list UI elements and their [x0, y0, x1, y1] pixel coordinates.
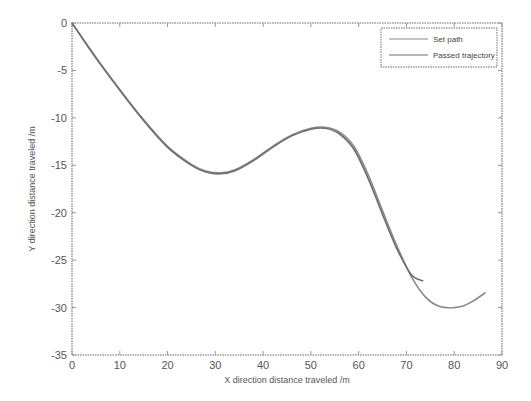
legend-label-set-path: Set path — [433, 35, 463, 44]
x-tick-label: 40 — [257, 359, 269, 371]
legend-label-passed-trajectory: Passed trajectory — [433, 51, 495, 60]
y-tick-label: 0 — [61, 17, 67, 29]
legend-box — [381, 28, 497, 67]
x-axis-label: X direction distance traveled /m — [224, 375, 350, 385]
trajectory-chart: 01020304050607080900-5-10-15-20-25-30-35… — [0, 0, 531, 401]
x-tick-label: 80 — [448, 359, 460, 371]
x-tick-label: 0 — [69, 359, 75, 371]
y-tick-label: -35 — [51, 349, 67, 361]
x-tick-label: 30 — [209, 359, 221, 371]
x-tick-label: 60 — [353, 359, 365, 371]
x-tick-label: 50 — [305, 359, 317, 371]
y-tick-label: -10 — [51, 112, 67, 124]
x-tick-label: 90 — [496, 359, 508, 371]
x-tick-label: 70 — [400, 359, 412, 371]
y-axis-label: Y direction distance traveled /m — [27, 126, 37, 251]
x-tick-label: 10 — [114, 359, 126, 371]
y-tick-label: -20 — [51, 207, 67, 219]
x-tick-label: 20 — [161, 359, 173, 371]
y-tick-label: -5 — [57, 64, 67, 76]
legend: Set path Passed trajectory — [381, 28, 497, 67]
y-tick-label: -25 — [51, 254, 67, 266]
y-tick-label: -15 — [51, 159, 67, 171]
y-tick-label: -30 — [51, 302, 67, 314]
